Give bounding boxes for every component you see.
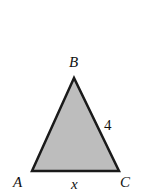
vertex-label-b: B xyxy=(69,54,78,70)
side-label-bc: 4 xyxy=(104,117,112,133)
side-label-ac: x xyxy=(70,176,78,192)
triangle-diagram: B 4 A x C xyxy=(0,0,151,192)
vertex-label-c: C xyxy=(120,174,131,190)
vertex-label-a: A xyxy=(12,174,23,190)
